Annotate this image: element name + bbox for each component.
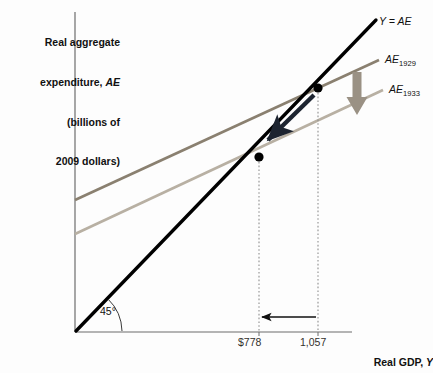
x-tick-label-1057: 1,057 <box>300 336 326 348</box>
series-label-identity: Y = AE <box>379 15 411 27</box>
angle-label-45-degrees: 45° <box>100 305 116 317</box>
y-axis-title-line-2: expenditure, AE <box>2 76 120 89</box>
ae-1933-line <box>75 90 383 234</box>
x-axis-title: Real GDP, Y (billions of 2009 dollars) <box>352 330 433 373</box>
equilibrium-point-1933 <box>254 152 263 161</box>
y-axis-title-line-1: Real aggregate <box>2 36 120 49</box>
series-label-ae-1929-base: AE <box>385 53 399 65</box>
series-label-ae-1933: AE1933 <box>389 83 420 95</box>
x-axis-title-line-1: Real GDP, Y <box>352 356 433 369</box>
x-tick-label-778: $778 <box>238 336 261 348</box>
series-label-ae-1929: AE1929 <box>385 53 416 65</box>
y-axis-title: Real aggregate expenditure, AE (billions… <box>2 10 120 195</box>
y-axis-title-line-4: 2009 dollars) <box>2 155 120 168</box>
y-axis-title-ae-symbol: AE <box>105 76 120 88</box>
ae-1929-line <box>75 60 379 200</box>
aggregate-expenditure-chart: Real aggregate expenditure, AE (billions… <box>0 0 433 373</box>
y-axis-title-line-3: (billions of <box>2 116 120 129</box>
identity-line-45deg <box>76 20 376 331</box>
series-label-ae-1929-sub: 1929 <box>399 59 416 68</box>
x-axis-title-y-symbol: Y <box>426 356 433 368</box>
ae-shift-down-arrow <box>347 72 368 115</box>
equilibrium-point-1929 <box>313 83 322 92</box>
y-axis-title-line-2-text: expenditure, AE <box>40 76 120 88</box>
series-label-ae-1933-sub: 1933 <box>403 89 420 98</box>
series-label-ae-1933-base: AE <box>389 83 403 95</box>
